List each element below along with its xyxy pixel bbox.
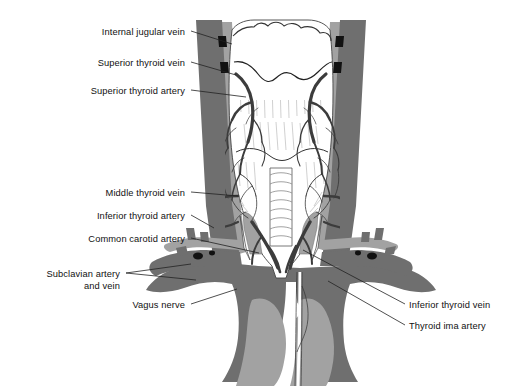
subclavian-dot-right	[367, 253, 377, 260]
ijv-notch-right-2	[333, 62, 342, 73]
label-thyroid-ima-artery: Thyroid ima artery	[409, 321, 486, 333]
subclavian-dot-right-2	[355, 251, 361, 256]
label-inferior-thyroid-vein: Inferior thyroid vein	[409, 300, 490, 312]
thyroid-blood-supply-figure: Internal jugular veinSuperior thyroid ve…	[0, 0, 518, 386]
label-internal-jugular-vein: Internal jugular vein	[102, 27, 185, 39]
label-common-carotid-artery: Common carotid artery	[88, 234, 185, 246]
label-middle-thyroid-vein: Middle thyroid vein	[106, 188, 185, 200]
label-superior-thyroid-artery: Superior thyroid artery	[91, 86, 185, 98]
label-superior-thyroid-vein: Superior thyroid vein	[98, 58, 185, 70]
ijv-notch-left-1	[218, 36, 227, 47]
label-inferior-thyroid-artery: Inferior thyroid artery	[97, 211, 185, 223]
trachea-outline	[270, 168, 292, 246]
trachea	[270, 168, 292, 246]
label-subclavian-artery-vein: Subclavian arteryand vein	[46, 269, 120, 292]
subclavian-dot-left-2	[209, 251, 215, 256]
label-vagus-nerve: Vagus nerve	[132, 300, 185, 312]
subclavian-dot-left	[193, 253, 203, 260]
ijv-notch-right-1	[335, 36, 344, 47]
